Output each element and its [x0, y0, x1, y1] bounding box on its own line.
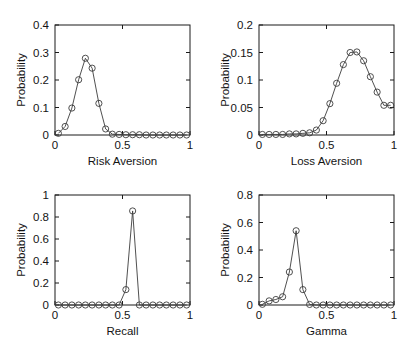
data-line [262, 52, 390, 135]
x-axis-title: Gamma [306, 325, 348, 337]
y-tick-label: 0.2 [33, 74, 49, 86]
subplot-risk-aversion: 00.5100.10.20.30.4Risk AversionProbabili… [0, 0, 204, 170]
y-tick-label: 0 [43, 129, 49, 141]
y-tick-label: 0.8 [33, 211, 49, 223]
x-axis-title: Risk Aversion [88, 155, 157, 167]
x-tick-label: 1 [391, 309, 397, 321]
y-tick-label: 0.3 [33, 47, 49, 59]
subplot-recall: 00.5100.20.40.60.81RecallProbability [0, 170, 204, 340]
x-tick-label: 0 [52, 309, 58, 321]
y-tick-label: 0.4 [33, 255, 50, 267]
x-axis-title: Loss Aversion [291, 155, 362, 167]
y-axis-title: Probability [219, 53, 231, 107]
y-tick-label: 0 [247, 299, 253, 311]
data-line [58, 58, 186, 135]
axes-box [55, 195, 190, 305]
data-markers [259, 49, 393, 138]
x-tick-label: 1 [391, 139, 397, 151]
y-tick-label: 0.4 [33, 19, 50, 31]
data-markers [259, 228, 393, 308]
axes-box [259, 195, 394, 305]
data-markers [55, 208, 189, 308]
y-tick-label: 1 [43, 189, 49, 201]
plot-area-loss-aversion: 00.5100.050.10.150.2Loss AversionProbabi… [204, 0, 408, 170]
y-tick-label: 0 [43, 299, 49, 311]
y-tick-label: 0.1 [237, 74, 253, 86]
y-tick-label: 0.4 [237, 244, 254, 256]
data-line [58, 211, 186, 305]
y-tick-label: 0.2 [237, 272, 253, 284]
x-tick-label: 0 [52, 139, 58, 151]
x-tick-label: 0 [256, 139, 262, 151]
axes-box [259, 25, 394, 135]
y-tick-label: 0.6 [33, 233, 49, 245]
y-axis-title: Probability [15, 223, 27, 277]
y-tick-label: 0.6 [237, 217, 253, 229]
subplot-gamma: 00.5100.20.40.60.8GammaProbability [204, 170, 408, 340]
x-tick-label: 0 [256, 309, 262, 321]
data-markers [55, 55, 189, 138]
x-tick-label: 0.5 [115, 139, 131, 151]
y-axis-title: Probability [15, 53, 27, 107]
y-axis-title: Probability [219, 223, 231, 277]
figure-canvas: 00.5100.10.20.30.4Risk AversionProbabili… [0, 0, 408, 341]
y-tick-label: 0.2 [237, 19, 253, 31]
y-tick-label: 0.15 [231, 47, 253, 59]
subplot-loss-aversion: 00.5100.050.10.150.2Loss AversionProbabi… [204, 0, 408, 170]
y-tick-label: 0.8 [237, 189, 253, 201]
x-tick-label: 0.5 [319, 139, 335, 151]
y-tick-label: 0.2 [33, 277, 49, 289]
x-tick-label: 0.5 [115, 309, 131, 321]
x-tick-label: 1 [187, 309, 193, 321]
plot-area-risk-aversion: 00.5100.10.20.30.4Risk AversionProbabili… [0, 0, 204, 170]
x-axis-title: Recall [107, 325, 139, 337]
x-tick-label: 1 [187, 139, 193, 151]
plot-area-gamma: 00.5100.20.40.60.8GammaProbability [204, 170, 408, 340]
y-tick-label: 0 [247, 129, 253, 141]
plot-area-recall: 00.5100.20.40.60.81RecallProbability [0, 170, 204, 340]
y-tick-label: 0.05 [231, 102, 253, 114]
x-tick-label: 0.5 [319, 309, 335, 321]
y-tick-label: 0.1 [33, 102, 49, 114]
